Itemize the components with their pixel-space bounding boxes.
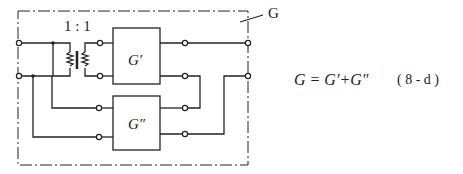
equation: G = G′+G″ [294,71,368,89]
network-pointer [240,15,263,22]
input-terminal-bottom [16,73,21,78]
equation-number: ( 8 - d ) [397,72,439,88]
output-terminal-bottom [245,73,250,78]
turns-ratio-label: 1 : 1 [64,18,91,35]
transformer-secondary [82,52,88,66]
transformer-primary [67,52,73,66]
input-terminal-top [16,40,21,45]
block-g-prime-label: G′ [128,52,142,69]
block-g-double-prime-label: G″ [128,116,145,133]
output-terminal-top [245,40,250,45]
network-label: G [268,5,279,22]
